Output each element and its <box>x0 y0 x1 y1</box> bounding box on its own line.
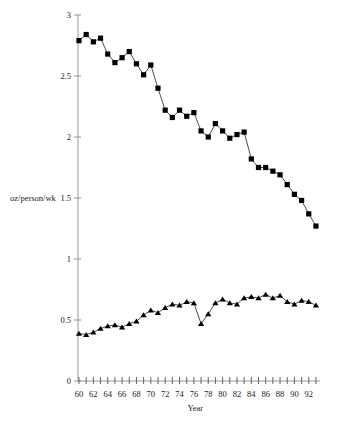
x-tick-label: 92 <box>299 390 319 399</box>
y-tick-label: 0 <box>0 377 71 386</box>
y-axis-title: oz/person/wk <box>10 194 56 203</box>
chart-plot-area <box>0 0 344 438</box>
series-lines <box>79 35 316 335</box>
y-tick-label: 3 <box>0 11 71 20</box>
chart-container: 00.511.522.53 60626466687072747678808284… <box>0 0 344 438</box>
y-tick-label: 0.5 <box>0 316 71 325</box>
x-axis-title: Year <box>187 404 203 413</box>
x-axis-ticks <box>79 377 316 384</box>
y-tick-label: 1 <box>0 255 71 264</box>
y-axis-ticks <box>74 15 81 381</box>
y-tick-label: 2.5 <box>0 72 71 81</box>
series-markers <box>76 32 319 337</box>
y-tick-label: 2 <box>0 133 71 142</box>
